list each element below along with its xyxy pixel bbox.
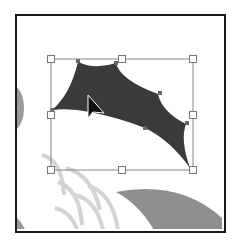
handle-top-center[interactable] [118, 55, 126, 63]
handle-middle-left[interactable] [47, 111, 55, 119]
handle-top-right[interactable] [189, 55, 197, 63]
bottom-gray-curve [116, 189, 222, 232]
handle-middle-right[interactable] [189, 111, 197, 119]
handle-bottom-center[interactable] [118, 166, 126, 174]
handle-bottom-left[interactable] [47, 166, 55, 174]
artwork-layer [0, 0, 235, 244]
handle-bottom-right[interactable] [189, 166, 197, 174]
bottom-left-corner-shape [17, 218, 26, 232]
handle-top-left[interactable] [47, 55, 55, 63]
dark-wing-shape[interactable] [52, 62, 190, 168]
left-gray-semicircle [0, 84, 24, 132]
